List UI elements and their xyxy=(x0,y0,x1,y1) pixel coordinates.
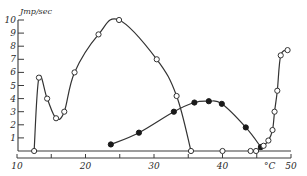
data-point-open-circles-low-temp xyxy=(45,96,50,101)
data-point-filled-circles xyxy=(136,130,141,135)
data-point-open-circles-baseline xyxy=(220,148,225,153)
data-point-open-circles-low-temp xyxy=(36,75,41,80)
x-tick-label: 40 xyxy=(216,161,229,171)
series-line-open-circles-low-temp xyxy=(34,19,191,151)
data-point-open-circles-low-temp xyxy=(188,148,193,153)
x-axis-unit-label: °C xyxy=(264,161,276,171)
data-point-open-circles-high-temp xyxy=(278,53,283,58)
data-point-open-circles-low-temp xyxy=(53,116,58,121)
y-tick-label: 2 xyxy=(9,120,16,130)
y-tick-label: 9 xyxy=(10,28,16,38)
x-tick-label: 20 xyxy=(79,161,92,171)
data-point-filled-circles xyxy=(206,99,211,104)
data-point-open-circles-high-temp xyxy=(270,127,275,132)
data-point-open-circles-low-temp xyxy=(72,70,77,75)
data-point-filled-circles xyxy=(171,109,176,114)
y-tick-label: 3 xyxy=(10,107,16,117)
y-tick-label: 7 xyxy=(10,54,16,64)
data-point-open-circles-low-temp xyxy=(32,148,37,153)
x-tick-label: 50 xyxy=(285,161,297,171)
y-tick-label: 10 xyxy=(5,15,17,25)
data-point-open-circles-low-temp xyxy=(96,32,101,37)
data-point-open-circles-high-temp xyxy=(253,148,258,153)
x-tick-label: 10 xyxy=(11,161,23,171)
y-axis-label: Jmp/sec xyxy=(18,7,52,16)
axes: 123456789101020304050 xyxy=(5,15,297,171)
data-point-filled-circles xyxy=(192,100,197,105)
data-point-open-circles-low-temp xyxy=(62,109,67,114)
data-point-open-circles-high-temp xyxy=(248,148,253,153)
y-tick-label: 6 xyxy=(10,67,16,77)
data-point-open-circles-low-temp xyxy=(154,57,159,62)
data-point-open-circles-high-temp xyxy=(275,88,280,93)
data-point-open-circles-high-temp xyxy=(272,109,277,114)
data-point-open-circles-high-temp xyxy=(261,143,266,148)
series-line-open-circles-high-temp xyxy=(251,50,288,151)
x-tick-label: 30 xyxy=(148,161,160,171)
data-point-open-circles-high-temp xyxy=(285,48,290,53)
y-tick-label: 1 xyxy=(10,133,16,143)
data-point-filled-circles xyxy=(219,101,224,106)
series-line-filled-circles xyxy=(111,101,261,147)
chart: 123456789101020304050 Jmp/sec °C xyxy=(0,0,307,176)
data-point-open-circles-high-temp xyxy=(266,138,271,143)
data-point-filled-circles xyxy=(108,142,113,147)
data-point-filled-circles xyxy=(243,125,248,130)
y-tick-label: 8 xyxy=(10,41,16,51)
data-point-open-circles-low-temp xyxy=(174,93,179,98)
curves xyxy=(34,19,287,152)
data-point-open-circles-low-temp xyxy=(116,17,121,22)
y-tick-label: 5 xyxy=(10,81,16,91)
y-tick-label: 4 xyxy=(9,94,16,104)
